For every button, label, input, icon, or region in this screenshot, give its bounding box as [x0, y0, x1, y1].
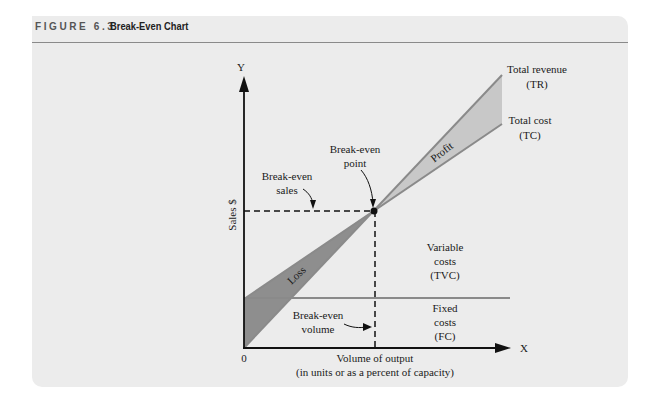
- x-axis-arrow-icon: [495, 343, 511, 353]
- variable-costs-label-3: (TVC): [430, 269, 460, 282]
- x-title-line2: (in units or as a percent of capacity): [296, 366, 454, 379]
- x-title-line1: Volume of output: [337, 352, 414, 364]
- tc-label-1: Total cost: [509, 114, 552, 126]
- fixed-costs-label-2: costs: [434, 316, 456, 328]
- tr-label-2: (TR): [526, 78, 548, 91]
- origin-label: 0: [241, 352, 247, 364]
- bep-pointer: [361, 170, 373, 203]
- bep-label-2: point: [344, 157, 367, 169]
- bep-arrow-icon: [370, 199, 376, 208]
- bep-label-1: Break-even: [330, 143, 381, 155]
- sales-axis-label: Sales $: [226, 199, 238, 231]
- tr-label-1: Total revenue: [507, 63, 567, 75]
- break-even-chart: Y X 0 Sales $ Volume of output (in units…: [0, 0, 659, 410]
- bev-arrow-icon: [363, 323, 372, 331]
- bes-label-2: sales: [276, 184, 297, 196]
- variable-costs-label-1: Variable: [427, 241, 464, 253]
- variable-costs-label-2: costs: [434, 255, 456, 267]
- bev-label-2: volume: [302, 323, 335, 335]
- x-axis-label: X: [520, 342, 528, 354]
- bes-arrow-icon: [310, 200, 316, 209]
- bev-pointer: [344, 324, 366, 328]
- tc-label-2: (TC): [519, 129, 541, 142]
- fixed-costs-label-1: Fixed: [432, 302, 458, 314]
- y-axis-arrow-icon: [239, 76, 249, 92]
- bev-label-1: Break-even: [293, 309, 344, 321]
- bes-label-1: Break-even: [262, 170, 313, 182]
- fixed-costs-label-3: (FC): [435, 330, 456, 343]
- break-even-point-marker: [371, 208, 378, 215]
- y-axis-label: Y: [237, 61, 245, 73]
